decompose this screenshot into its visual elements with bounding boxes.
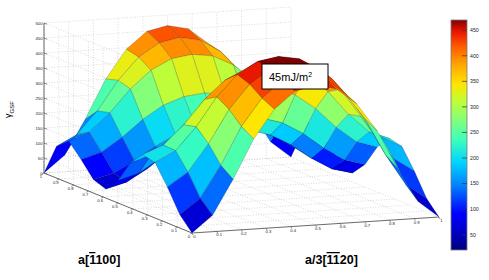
y-axis-title-rest: 20	[340, 253, 354, 267]
x-axis-title-rest: 100	[95, 253, 116, 267]
y-tick-label: 0.4	[290, 228, 296, 233]
z-axis-title-subscript: GSF	[9, 101, 15, 114]
x-tick-label: 0.8	[68, 186, 74, 191]
y-axis-title-bar-digits: 11	[327, 253, 340, 267]
y-axis-title-bracket-close: ]	[354, 253, 358, 267]
y-tick-label: 0.5	[315, 226, 321, 231]
z-tick-label: 50	[38, 156, 43, 161]
colorbar-tick-label: 450	[470, 27, 479, 33]
x-tick-label: 0.2	[156, 222, 162, 227]
y-tick-label: 0.7	[364, 223, 370, 228]
annotation-45mJm2: 45mJ/m2	[262, 64, 328, 89]
colorbar-tick-label: 300	[470, 104, 479, 110]
colorbar-tick-label: 100	[470, 206, 479, 212]
z-tick-label: 400	[36, 51, 44, 56]
z-tick-label: 150	[36, 126, 44, 131]
x-axis-title: a[1100]	[78, 253, 120, 267]
z-tick-label: 200	[36, 111, 44, 116]
z-tick-label: 450	[36, 36, 44, 41]
z-tick-label: 350	[36, 66, 44, 71]
colorbar-tick-label: 350	[470, 78, 479, 84]
colorbar-tick-label: 150	[470, 180, 479, 186]
figure-3d-surface-plot: 500450400350300250200150100500 10.90.80.…	[0, 0, 489, 280]
x-tick-label: 0.4	[127, 210, 133, 215]
surface-plot-canvas: 500450400350300250200150100500 10.90.80.…	[0, 0, 489, 280]
colorbar-tick-label: 400	[470, 53, 479, 59]
y-tick-label: 0.9	[414, 220, 420, 225]
x-tick-label: 0.7	[82, 192, 88, 197]
y-tick-label: 0.2	[241, 231, 247, 236]
svg-text:a[1100]: a[1100]	[78, 253, 120, 267]
y-axis-title: a/3[1120]	[305, 253, 358, 267]
y-tick-label: 0.8	[389, 221, 395, 226]
colorbar-tick-label: 250	[470, 129, 479, 135]
z-tick-label: 500	[36, 21, 44, 26]
colorbar-tick-label: 50	[470, 232, 476, 238]
svg-text:a/3[1120]: a/3[1120]	[305, 253, 358, 267]
x-tick-label: 0.6	[97, 198, 103, 203]
z-tick-label: 100	[36, 141, 44, 146]
x-tick-label: 0.5	[112, 204, 118, 209]
annotation-text: 45mJ/m2	[269, 71, 312, 83]
x-tick-label: 0.3	[142, 216, 148, 221]
y-tick-label: 0.1	[216, 232, 222, 237]
colorbar-tick-label: 200	[470, 155, 479, 161]
y-tick-label: 0.3	[266, 229, 272, 234]
y-axis-title-prefix: a/3	[305, 253, 322, 267]
z-tick-label: 250	[36, 96, 44, 101]
y-tick-label: 0.6	[340, 224, 346, 229]
x-axis-title-bracket-close: ]	[116, 253, 120, 267]
x-tick-label: 0.9	[53, 180, 59, 185]
x-tick-label: 0.1	[171, 228, 177, 233]
colorbar-gradient	[451, 20, 467, 250]
z-tick-label: 300	[36, 81, 44, 86]
